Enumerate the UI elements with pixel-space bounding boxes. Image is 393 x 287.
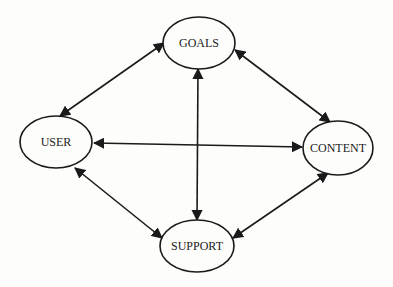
arrow-goals-support xyxy=(197,69,198,220)
content-label: CONTENT xyxy=(310,141,367,155)
arrow-goals-content xyxy=(235,50,330,122)
arrow-user-support xyxy=(75,168,162,238)
node-user: USER xyxy=(20,116,92,168)
arrow-user-goals xyxy=(60,43,164,116)
edges xyxy=(60,43,330,238)
node-support: SUPPORT xyxy=(160,220,234,272)
support-label: SUPPORT xyxy=(171,239,224,253)
user-label: USER xyxy=(41,135,72,149)
arrow-support-content xyxy=(233,173,328,238)
goals-label: GOALS xyxy=(179,36,219,50)
node-content: CONTENT xyxy=(303,121,373,175)
node-goals: GOALS xyxy=(163,17,235,69)
relationship-diagram: GOALSUSERCONTENTSUPPORT xyxy=(0,0,393,287)
